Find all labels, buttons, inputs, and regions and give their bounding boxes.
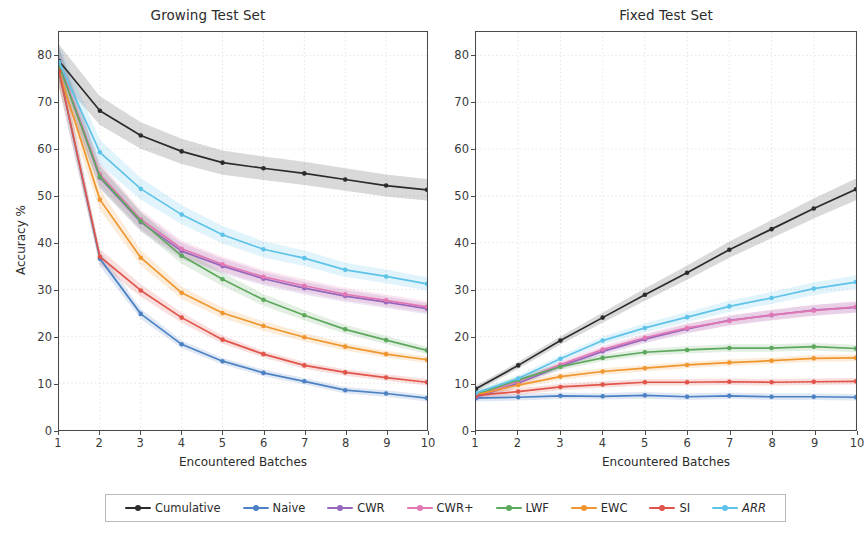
x-tick-mark — [181, 431, 182, 435]
x-tick-label: 6 — [260, 436, 267, 450]
x-tick-mark — [602, 431, 603, 435]
x-tick-label: 2 — [95, 436, 102, 450]
x-tick-label: 4 — [178, 436, 185, 450]
x-tick-mark — [428, 431, 429, 435]
x-tick-mark — [140, 431, 141, 435]
y-tick-label: 40 — [445, 236, 469, 250]
y-tick-mark — [471, 243, 475, 244]
chart-legend: CumulativeNaiveCWRCWR+LWFEWCSIARR — [105, 494, 786, 522]
x-tick-label: 4 — [599, 436, 606, 450]
y-tick-mark — [54, 290, 58, 291]
legend-label: Naive — [273, 501, 306, 515]
legend-swatch-icon — [712, 503, 738, 513]
y-tick-mark — [54, 196, 58, 197]
legend-label: ARR — [742, 501, 766, 515]
x-tick-mark — [99, 431, 100, 435]
confidence-band — [59, 56, 427, 363]
y-tick-mark — [54, 337, 58, 338]
x-tick-label: 5 — [219, 436, 226, 450]
x-tick-mark — [387, 431, 388, 435]
y-tick-label: 20 — [445, 330, 469, 344]
plot-canvas-right — [476, 32, 856, 430]
y-tick-mark — [54, 149, 58, 150]
legend-swatch-icon — [649, 503, 675, 513]
y-tick-label: 30 — [28, 283, 52, 297]
x-tick-label: 9 — [383, 436, 390, 450]
x-tick-label: 1 — [471, 436, 478, 450]
confidence-band — [59, 48, 427, 354]
y-tick-label: 50 — [28, 189, 52, 203]
y-tick-label: 10 — [445, 377, 469, 391]
panel-growing-test-set: Growing Test Set 01020304050607080123456… — [0, 0, 440, 490]
y-tick-mark — [471, 384, 475, 385]
y-tick-mark — [54, 243, 58, 244]
y-tick-label: 70 — [28, 95, 52, 109]
legend-label: SI — [679, 501, 690, 515]
x-tick-label: 7 — [301, 436, 308, 450]
x-tick-mark — [772, 431, 773, 435]
y-tick-label: 0 — [28, 424, 52, 438]
x-tick-mark — [560, 431, 561, 435]
y-tick-label: 60 — [445, 142, 469, 156]
legend-item-cumulative[interactable]: Cumulative — [125, 501, 221, 515]
plot-area-left — [58, 31, 428, 431]
y-tick-label: 20 — [28, 330, 52, 344]
y-tick-label: 0 — [445, 424, 469, 438]
x-tick-label: 3 — [556, 436, 563, 450]
x-tick-label: 10 — [850, 436, 865, 450]
y-tick-mark — [471, 102, 475, 103]
x-tick-mark — [730, 431, 731, 435]
y-tick-label: 10 — [28, 377, 52, 391]
plot-area-right — [475, 31, 857, 431]
x-tick-mark — [264, 431, 265, 435]
x-tick-mark — [517, 431, 518, 435]
legend-label: LWF — [526, 501, 549, 515]
legend-label: EWC — [601, 501, 628, 515]
x-tick-mark — [645, 431, 646, 435]
legend-swatch-icon — [407, 503, 433, 513]
legend-label: Cumulative — [155, 501, 221, 515]
legend-item-cwrplus[interactable]: CWR+ — [407, 501, 474, 515]
legend-item-arr[interactable]: ARR — [712, 501, 766, 515]
panel-title-left: Growing Test Set — [0, 7, 428, 23]
x-tick-mark — [687, 431, 688, 435]
legend-item-si[interactable]: SI — [649, 501, 690, 515]
y-tick-label: 70 — [445, 95, 469, 109]
x-tick-label: 8 — [768, 436, 775, 450]
y-tick-mark — [54, 55, 58, 56]
x-tick-label: 2 — [514, 436, 521, 450]
legend-item-cwr[interactable]: CWR — [327, 501, 384, 515]
legend-swatch-icon — [243, 503, 269, 513]
x-tick-mark — [58, 431, 59, 435]
confidence-band — [59, 44, 427, 200]
panel-fixed-test-set: Fixed Test Set 0102030405060708012345678… — [430, 0, 866, 490]
x-tick-mark — [857, 431, 858, 435]
y-tick-mark — [471, 55, 475, 56]
y-tick-label: 50 — [445, 189, 469, 203]
y-tick-label: 60 — [28, 142, 52, 156]
x-tick-mark — [222, 431, 223, 435]
y-tick-mark — [54, 102, 58, 103]
x-tick-mark — [346, 431, 347, 435]
y-tick-label: 80 — [28, 48, 52, 62]
x-tick-label: 3 — [137, 436, 144, 450]
legend-item-naive[interactable]: Naive — [243, 501, 306, 515]
x-tick-label: 1 — [54, 436, 61, 450]
y-axis-label-left: Accuracy % — [14, 205, 28, 275]
x-tick-mark — [305, 431, 306, 435]
y-tick-label: 80 — [445, 48, 469, 62]
legend-item-ewc[interactable]: EWC — [571, 501, 628, 515]
y-tick-mark — [471, 196, 475, 197]
panel-title-right: Fixed Test Set — [448, 7, 866, 23]
x-tick-label: 8 — [342, 436, 349, 450]
legend-item-lwf[interactable]: LWF — [496, 501, 549, 515]
x-tick-label: 7 — [726, 436, 733, 450]
x-axis-label-left: Encountered Batches — [179, 455, 307, 469]
legend-label: CWR+ — [437, 501, 474, 515]
legend-swatch-icon — [125, 503, 151, 513]
legend-label: CWR — [357, 501, 384, 515]
x-tick-label: 9 — [811, 436, 818, 450]
y-tick-label: 40 — [28, 236, 52, 250]
legend-swatch-icon — [571, 503, 597, 513]
y-tick-mark — [471, 337, 475, 338]
